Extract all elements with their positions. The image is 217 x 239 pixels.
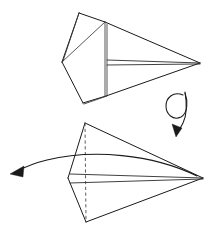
flip-rotation-arrow: [166, 92, 187, 137]
direction-arrow-head: [10, 166, 24, 177]
lower-dart-form: [68, 123, 203, 222]
origami-diagram-canvas: [0, 0, 217, 239]
flip-arrow-head: [172, 124, 182, 137]
origami-diagram-root: Paper airplane fold step Two-stage origa…: [0, 0, 217, 239]
upper-form-face: [62, 13, 200, 103]
flip-arrow-loop: [166, 93, 187, 118]
upper-folded-form: [62, 13, 200, 104]
lower-form-face: [68, 123, 203, 222]
